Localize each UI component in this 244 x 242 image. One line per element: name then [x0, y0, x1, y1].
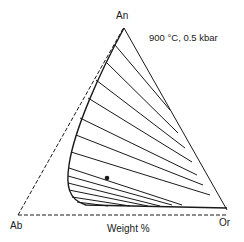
tie-line: [96, 80, 185, 148]
solvus-curve: [68, 28, 227, 208]
bulk-composition-dot: [105, 176, 110, 181]
vertex-label-ab: Ab: [10, 220, 23, 231]
vertex-label-or: Or: [219, 217, 231, 228]
ternary-diagram: An Ab Or 900 °C, 0.5 kbar Weight %: [0, 0, 244, 242]
axis-label-weight-percent: Weight %: [107, 223, 150, 234]
tie-line: [76, 135, 203, 185]
tie-lines: [68, 45, 210, 206]
an-or-side: [124, 28, 227, 210]
diagram-title: 900 °C, 0.5 kbar: [149, 32, 218, 43]
vertex-label-an: An: [116, 10, 128, 21]
tie-line: [106, 62, 178, 133]
